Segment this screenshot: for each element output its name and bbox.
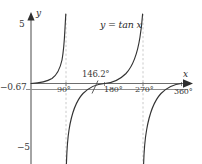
y-axis-min-label: −5	[17, 143, 30, 152]
y-axis-arrowhead	[27, 12, 34, 21]
x-axis-variable-label: x	[183, 70, 188, 79]
x-tick-label-360: 360°	[174, 88, 192, 96]
x-tick-label-180: 180°	[104, 86, 122, 94]
curve-equation-label: y = tan x	[100, 20, 142, 30]
tangent-branch-1	[31, 14, 66, 84]
tangent-graph-figure: 5 −5 y x −0.67 90° 180° 270° 360° 146.2°…	[0, 0, 202, 164]
y-axis-variable-label: y	[36, 9, 41, 18]
x-tick-label-90: 90°	[57, 86, 71, 94]
y-axis-max-label: 5	[19, 20, 25, 29]
x-tick-label-270: 270°	[135, 86, 153, 94]
reference-value-label: −0.67	[0, 83, 27, 92]
solution-annotation-label: 146.2°	[82, 70, 109, 79]
